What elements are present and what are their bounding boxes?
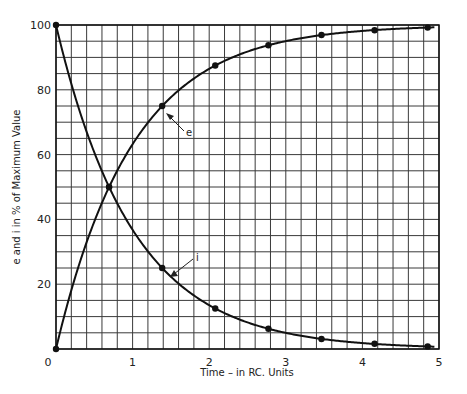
x-axis-label: Time – in RC. Units [199,367,293,378]
x-tick-label: 4 [359,356,366,369]
data-point-i [159,265,165,271]
i-annotation: i [196,252,199,263]
data-point-i [318,336,324,342]
data-point-e [424,24,430,30]
y-tick-label: 40 [37,213,51,226]
data-point-i [53,22,59,28]
data-point-e [265,42,271,48]
x-tick-label: 0 [45,356,52,369]
data-point-i [265,326,271,332]
data-point-i [212,305,218,311]
y-tick-label: 20 [37,278,51,291]
data-point-i [106,184,112,190]
e-arrowhead-icon [166,113,174,120]
i-arrowhead-icon [170,270,178,277]
x-tick-label: 1 [129,356,136,369]
y-tick-label: 100 [30,19,51,32]
data-point-e [212,62,218,68]
y-tick-label: 80 [37,84,51,97]
y-axis-label: e and i in % of Maximum Value [11,110,22,265]
grid [56,25,439,349]
data-point-e [371,27,377,33]
x-tick-label: 5 [436,356,443,369]
data-point-e [318,32,324,38]
y-tick-label: 60 [37,149,51,162]
e-annotation: e [186,127,192,138]
i-pointer-line [174,259,193,274]
e-pointer-line [170,117,184,131]
data-point-e [53,346,59,352]
data-point-i [424,343,430,349]
data-point-e [159,103,165,109]
chart-canvas: 01234520406080100 e i Time – in RC. Unit… [0,0,467,394]
data-point-i [371,341,377,347]
